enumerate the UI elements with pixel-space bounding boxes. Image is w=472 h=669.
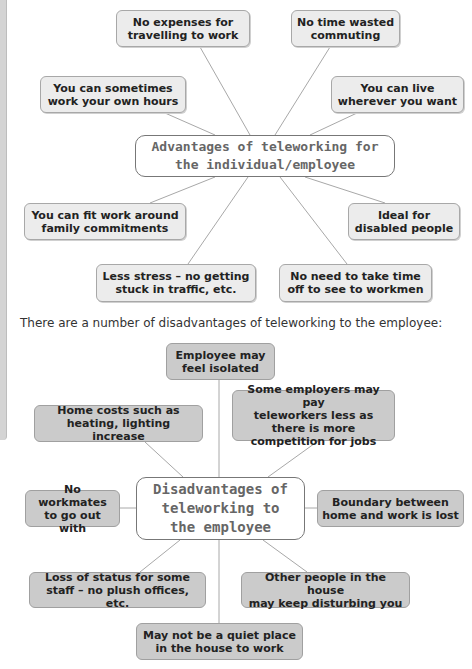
advantage-less-stress: Less stress – no getting stuck in traffi… xyxy=(96,264,256,302)
disadvantage-disturbances: Other people in the house may keep distu… xyxy=(241,572,410,608)
advantage-own-hours: You can sometimes work your own hours xyxy=(40,76,186,113)
disadvantage-no-workmates: No workmates to go out with xyxy=(25,490,120,527)
advantage-live-anywhere: You can live wherever you want xyxy=(331,76,464,113)
disadvantages-hub: Disadvantages of teleworking to the empl… xyxy=(136,477,305,540)
advantage-disabled-people: Ideal for disabled people xyxy=(348,203,460,240)
disadvantage-loss-of-status: Loss of status for some staff – no plush… xyxy=(29,572,206,608)
disadvantage-no-quiet-place: May not be a quiet place in the house to… xyxy=(136,623,303,660)
disadvantage-boundary-lost: Boundary between home and work is lost xyxy=(317,490,464,527)
advantage-no-travel-expenses: No expenses for travelling to work xyxy=(116,10,250,47)
disadvantage-isolation: Employee may feel isolated xyxy=(166,343,275,380)
advantages-hub: Advantages of teleworking for the indivi… xyxy=(135,135,395,177)
advantage-no-commute-time: No time wasted commuting xyxy=(291,10,400,47)
advantage-family-commitments: You can fit work around family commitmen… xyxy=(24,203,186,240)
disadvantage-lower-pay: Some employers may pay teleworkers less … xyxy=(232,390,395,441)
intro-text: There are a number of disadvantages of t… xyxy=(20,316,442,330)
disadvantage-home-costs: Home costs such as heating, lighting inc… xyxy=(34,405,203,442)
advantage-no-time-off: No need to take time off to see to workm… xyxy=(279,264,432,302)
